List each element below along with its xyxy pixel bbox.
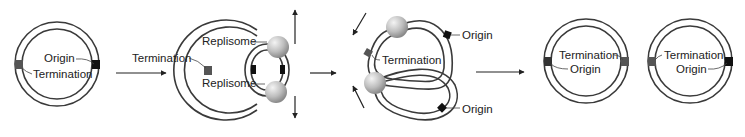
replisome-top-label: Replisome (202, 35, 256, 47)
replication-diagram: Origin Termination Termination Replisome… (0, 0, 745, 137)
origin-bottom-label: Origin (462, 103, 493, 115)
termination-label: Termination (664, 49, 723, 61)
replisome-top (386, 16, 408, 38)
termination-marker (648, 57, 656, 66)
replisome-bottom (265, 81, 287, 103)
stage-3-catenated: Origin Termination Origin (353, 13, 493, 120)
origin-marker (92, 60, 100, 69)
origin-marker (544, 57, 552, 66)
termination-label: Termination (132, 52, 191, 64)
replisome-bottom (364, 72, 386, 94)
stage-4a-daughter: Termination Origin (544, 19, 629, 103)
stage-4b-daughter: Termination Origin (648, 19, 733, 103)
termination-label: Termination (33, 68, 92, 80)
stage-2-replicating: Termination Replisome Replisome (132, 10, 295, 120)
origin-label: Origin (44, 52, 75, 64)
stage-1-chromosome: Origin Termination (15, 22, 100, 106)
termination-label: Termination (559, 49, 618, 61)
termination-marker (15, 60, 23, 69)
origin-top-label: Origin (462, 29, 493, 41)
replisome-top (267, 36, 289, 58)
termination-label: Termination (382, 54, 441, 66)
origin-marker (725, 57, 733, 66)
origin-label: Origin (676, 63, 707, 75)
replisome-bottom-label: Replisome (202, 77, 256, 89)
origin-label: Origin (570, 63, 601, 75)
origin-top-marker (443, 30, 452, 39)
